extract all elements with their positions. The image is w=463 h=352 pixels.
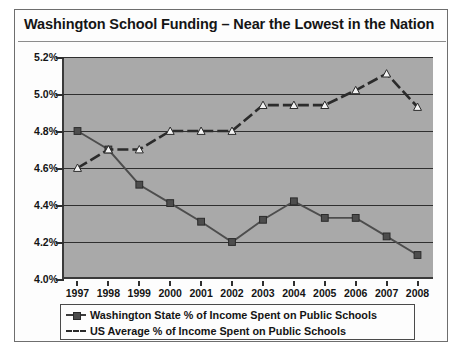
x-axis-tick-mark — [76, 281, 78, 286]
x-axis-tick-mark — [293, 281, 295, 286]
legend-item-us-average: US Average % of Income Spent on Public S… — [65, 323, 410, 339]
legend-label-us-average: US Average % of Income Spent on Public S… — [90, 325, 346, 337]
legend-key-dashed-line-icon — [65, 324, 87, 338]
x-axis-tick-mark — [200, 281, 202, 286]
y-axis-tick-mark — [56, 205, 64, 207]
y-axis-tick-label: 4.0% — [18, 273, 58, 285]
x-axis-tick-mark — [355, 281, 357, 286]
y-axis-tick-label: 4.6% — [18, 162, 58, 174]
x-axis-tick-mark — [107, 281, 109, 286]
plot-area — [62, 57, 433, 279]
y-axis-tick-mark — [56, 57, 64, 59]
x-axis-tick-mark — [324, 281, 326, 286]
data-point — [167, 200, 174, 207]
y-axis-tick-label: 4.4% — [18, 199, 58, 211]
chart-legend: Washington State % of Income Spent on Pu… — [60, 304, 415, 340]
data-point — [136, 181, 143, 188]
data-point — [74, 128, 81, 135]
y-axis-tick-label: 4.2% — [18, 236, 58, 248]
series-line-0 — [78, 131, 418, 255]
x-axis-tick-mark — [231, 281, 233, 286]
data-point — [383, 233, 390, 240]
y-axis-tick-mark — [56, 94, 64, 96]
x-axis-tick-label: 2008 — [398, 287, 438, 299]
series-layer — [62, 57, 433, 279]
legend-item-washington-state: Washington State % of Income Spent on Pu… — [65, 307, 410, 323]
data-point — [291, 198, 298, 205]
legend-key-solid-square-icon — [65, 308, 87, 322]
title-divider — [18, 41, 446, 42]
x-axis-tick-mark — [138, 281, 140, 286]
chart-title: Washington School Funding – Near the Low… — [24, 16, 444, 38]
data-point — [260, 216, 267, 223]
data-point — [198, 218, 205, 225]
y-axis-tick-label: 5.2% — [18, 51, 58, 63]
y-axis-tick-mark — [56, 242, 64, 244]
data-point — [352, 215, 359, 222]
y-axis-tick-label: 5.0% — [18, 88, 58, 100]
x-axis-tick-mark — [417, 281, 419, 286]
y-axis-tick-label: 4.8% — [18, 125, 58, 137]
y-axis-tick-mark — [56, 168, 64, 170]
data-point — [229, 239, 236, 246]
y-axis-tick-mark — [56, 131, 64, 133]
y-axis: 5.2%5.0%4.8%4.6%4.4%4.2%4.0% — [12, 57, 58, 279]
legend-label-washington-state: Washington State % of Income Spent on Pu… — [90, 309, 377, 321]
data-point — [383, 70, 391, 77]
data-point — [414, 252, 421, 259]
x-axis-tick-mark — [169, 281, 171, 286]
data-point — [259, 101, 267, 108]
x-axis: 1997199819992000200120022003200420052006… — [62, 281, 433, 303]
x-axis-tick-mark — [386, 281, 388, 286]
data-point — [321, 215, 328, 222]
x-axis-tick-mark — [262, 281, 264, 286]
series-line-1 — [78, 74, 418, 168]
